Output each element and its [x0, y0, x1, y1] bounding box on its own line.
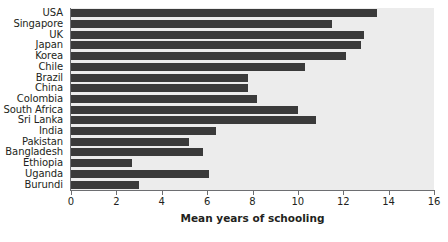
- x-axis-title: Mean years of schooling: [71, 212, 434, 224]
- bar: [71, 116, 316, 124]
- bar-row: [71, 29, 434, 40]
- x-axis-tick: [298, 191, 299, 195]
- x-axis-tick-label: 0: [59, 196, 83, 207]
- x-axis-tick-label: 4: [150, 196, 174, 207]
- bar-row: [71, 19, 434, 30]
- bar-row: [71, 147, 434, 158]
- bar-row: [71, 94, 434, 105]
- category-label: Chile: [0, 62, 67, 73]
- x-axis-tick: [389, 191, 390, 195]
- bar: [71, 106, 298, 114]
- x-axis-tick: [116, 191, 117, 195]
- bar-series: [71, 8, 434, 190]
- category-label: Korea: [0, 51, 67, 62]
- bar-row: [71, 169, 434, 180]
- x-axis-tick-label: 10: [286, 196, 310, 207]
- bar: [71, 41, 361, 49]
- bar-row: [71, 83, 434, 94]
- bar-row: [71, 8, 434, 19]
- bar: [71, 181, 139, 189]
- category-label: Ethiopia: [0, 158, 67, 169]
- bar-row: [71, 104, 434, 115]
- bar: [71, 84, 248, 92]
- x-axis-tick-label: 14: [377, 196, 401, 207]
- bar: [71, 95, 257, 103]
- x-axis-tick: [207, 191, 208, 195]
- bar-row: [71, 136, 434, 147]
- x-axis-tick: [162, 191, 163, 195]
- category-label: Uganda: [0, 169, 67, 180]
- bar-row: [71, 158, 434, 169]
- x-axis-tick-label: 12: [331, 196, 355, 207]
- category-label: Burundi: [0, 179, 67, 190]
- category-label: Colombia: [0, 94, 67, 105]
- bar: [71, 20, 332, 28]
- x-axis-tick: [343, 191, 344, 195]
- vertical-axis-line: [70, 8, 71, 191]
- bar: [71, 170, 209, 178]
- x-axis-tick: [434, 191, 435, 195]
- bar-row: [71, 115, 434, 126]
- bar-row: [71, 51, 434, 62]
- bar: [71, 138, 189, 146]
- x-axis-tick-label: 6: [195, 196, 219, 207]
- category-axis-labels: USASingaporeUKJapanKoreaChileBrazilChina…: [0, 8, 67, 190]
- category-label: Singapore: [0, 19, 67, 30]
- bar-chart: USASingaporeUKJapanKoreaChileBrazilChina…: [0, 0, 448, 242]
- bar: [71, 63, 305, 71]
- x-axis-tick-label: 16: [422, 196, 446, 207]
- x-axis-tick: [71, 191, 72, 195]
- bar: [71, 127, 216, 135]
- x-axis-tick-label: 2: [104, 196, 128, 207]
- bar: [71, 52, 346, 60]
- bar: [71, 159, 132, 167]
- bar-row: [71, 179, 434, 190]
- category-label: India: [0, 126, 67, 137]
- bar: [71, 31, 364, 39]
- plot-area: [71, 8, 434, 190]
- x-axis-tick: [253, 191, 254, 195]
- bar: [71, 74, 248, 82]
- bar: [71, 9, 377, 17]
- x-axis-tick-label: 8: [241, 196, 265, 207]
- bar-row: [71, 40, 434, 51]
- bar-row: [71, 126, 434, 137]
- bar-row: [71, 72, 434, 83]
- bar-row: [71, 62, 434, 73]
- bar: [71, 148, 203, 156]
